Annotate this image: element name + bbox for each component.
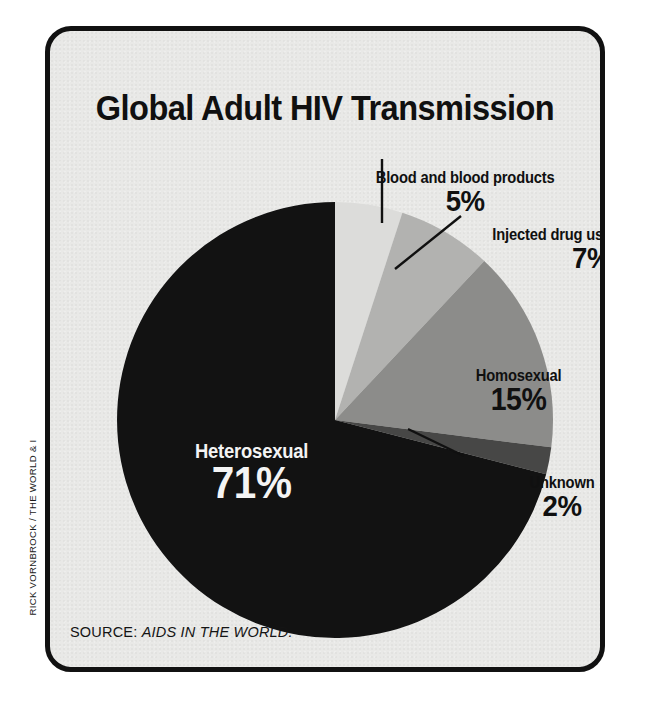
slice-label-homosexual: Homosexual 15% (472, 368, 565, 416)
source-note: SOURCE: AIDS IN THE WORLD. (70, 624, 293, 640)
slice-label-blood-and-blood-products: Blood and blood products 5% (368, 170, 562, 217)
slice-value-injected: 7% (492, 243, 605, 274)
slice-label-heterosexual: Heterosexual 71% (190, 441, 313, 506)
illustrator-credit: RICK VORNBROCK / THE WORLD & I (27, 436, 38, 616)
slice-value-heterosexual: 71% (195, 461, 308, 506)
source-work-title: AIDS IN THE WORLD. (142, 624, 293, 640)
slice-value-blood: 5% (376, 186, 555, 217)
slice-value-homosexual: 15% (476, 384, 562, 416)
pie-chart-svg (50, 31, 605, 672)
slice-label-injected-drug-use: Injected drug use 7% (482, 227, 605, 274)
page-background: Global Adult HIV Transmission (0, 0, 649, 720)
source-prefix: SOURCE: (70, 624, 137, 640)
slice-value-unknown: 2% (514, 491, 605, 522)
pie-chart (50, 31, 600, 667)
slice-label-unknown: Unknown 2% (510, 475, 605, 522)
chart-panel: Global Adult HIV Transmission (45, 26, 605, 672)
